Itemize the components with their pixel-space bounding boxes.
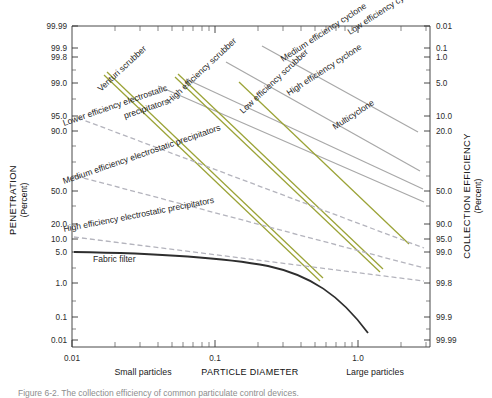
x-tick-label: 0.1 [209, 354, 221, 363]
series-label-high-efficiency-esp: High efficiency electrostatic precipitat… [62, 195, 214, 234]
y2-tick-label: 50.0 [436, 187, 452, 196]
plot-frame [72, 26, 430, 347]
series-label-multicyclone: Multicyclone [331, 97, 376, 131]
y2-tick-label: 95.0 [436, 235, 452, 244]
y2-tick-label: 1.0 [436, 53, 448, 62]
series-line-high-efficiency-scrubber-b [178, 74, 383, 269]
figure-caption: Figure 6-2. The collection efficiency of… [18, 388, 299, 398]
y-axis-title: PENETRATION [7, 165, 18, 235]
y-tick-label: 90.0 [51, 127, 67, 136]
series-label-lower-efficiency-esp: Lower efficiency electrostatic precipita… [61, 82, 174, 140]
top-axis-ticks [115, 26, 426, 33]
y-tick-label: 5.0 [56, 248, 68, 257]
right-axis-ticks [424, 26, 430, 340]
series-line-lower-efficiency-esp [78, 118, 424, 248]
right-tick-labels: 0.01 0.1 1.0 5.0 10.0 20.0 50.0 90.0 95.… [436, 22, 457, 345]
x-tick-label: 1.0 [352, 354, 364, 363]
series-label-fabric-filter: Fabric filter [93, 254, 136, 264]
series-line-fabric-filter [74, 252, 368, 333]
y-tick-label: 99.8 [51, 53, 67, 62]
y2-tick-label: 5.0 [436, 79, 448, 88]
y-tick-label: 99.0 [51, 79, 67, 88]
y2-axis-title: COLLECTION EFFICIENCY [461, 133, 472, 259]
y2-tick-label: 99.8 [436, 279, 452, 288]
y-tick-label: 10.0 [51, 235, 67, 244]
y2-tick-label: 99.9 [436, 313, 452, 322]
x-tick-label: 0.01 [64, 354, 80, 363]
y-tick-label: 99.9 [51, 44, 67, 53]
y2-tick-label: 0.01 [436, 22, 452, 31]
chart-svg: 99.99 99.9 99.8 99.0 95.0 90.0 50.0 20.0… [0, 0, 492, 398]
y-tick-label: 50.0 [51, 187, 67, 196]
y2-tick-label: 90.0 [436, 220, 452, 229]
y-tick-label: 0.1 [56, 313, 68, 322]
series-label-high-efficiency-scrubber: High efficiency scrubber [165, 36, 239, 106]
bottom-axis-ticks [72, 340, 426, 347]
y-tick-label: 0.01 [51, 336, 67, 345]
y-tick-label: 99.99 [47, 22, 68, 31]
series-line-high-efficiency-scrubber [175, 77, 380, 272]
y2-axis-subtitle: (Percent) [473, 179, 483, 214]
y2-tick-label: 99.99 [436, 336, 457, 345]
y-tick-label: 1.0 [56, 279, 68, 288]
series-line-low-efficiency-scrubber [239, 82, 409, 244]
y2-tick-label: 0.1 [436, 44, 448, 53]
x-annotation-small-particles: Small particles [114, 367, 172, 377]
y2-tick-label: 10.0 [436, 112, 452, 121]
series-line-multicyclone [158, 86, 424, 202]
x-axis-title: PARTICLE DIAMETER [201, 367, 298, 377]
x-tick-labels: 0.01 0.1 1.0 [64, 354, 364, 363]
series-line-venturi-scrubber-b [107, 72, 323, 278]
y-axis-subtitle: (Percent) [19, 183, 29, 218]
series-label-medium-efficiency-esp: Medium efficiency electrostatic precipit… [61, 122, 221, 186]
chart-figure: 99.99 99.9 99.8 99.0 95.0 90.0 50.0 20.0… [0, 0, 492, 398]
y2-tick-label: 20.0 [436, 127, 452, 136]
x-annotation-large-particles: Large particles [346, 367, 404, 377]
y2-tick-label: 99.0 [436, 248, 452, 257]
